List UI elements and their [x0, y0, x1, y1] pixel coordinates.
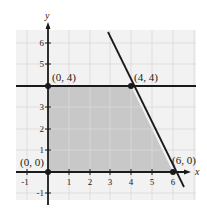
- vertex-label-0-0: (0, 0): [20, 156, 44, 169]
- y-tick-label: 1: [40, 145, 45, 155]
- x-tick-label: -1: [21, 177, 29, 187]
- x-tick-label: 1: [67, 177, 72, 187]
- y-tick-label: 5: [40, 59, 45, 69]
- vertex-4-4: [128, 83, 134, 89]
- vertex-0-0: [45, 169, 51, 175]
- x-tick-label: 5: [150, 177, 155, 187]
- vertex-label-0-4: (0, 4): [52, 71, 76, 84]
- y-tick-label: 2: [40, 124, 45, 134]
- x-axis-label: x: [194, 166, 200, 177]
- x-tick-label: 4: [129, 177, 134, 187]
- x-tick-label: 3: [108, 177, 113, 187]
- y-tick-label: 3: [40, 102, 45, 112]
- y-tick-label: -1: [37, 188, 45, 198]
- y-axis-arrow-icon: [46, 22, 51, 29]
- x-tick-label: 6: [171, 177, 176, 187]
- vertex-label-6-0: (6, 0): [172, 154, 196, 167]
- vertex-label-4-4: (4, 4): [134, 71, 158, 84]
- y-axis-label: y: [44, 10, 50, 21]
- y-tick-label: 6: [40, 38, 45, 48]
- vertex-6-0: [170, 169, 176, 175]
- x-tick-label: 2: [88, 177, 93, 187]
- linear-programming-graph: x y -1 1 2 3 4 5 6 6 5 3 2 1 -1: [0, 0, 207, 217]
- vertex-0-4: [45, 83, 51, 89]
